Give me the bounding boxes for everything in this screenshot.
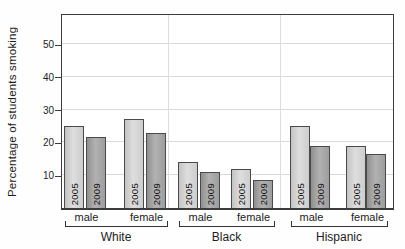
gridline-h-20 bbox=[62, 141, 393, 142]
group-bracket-black bbox=[179, 221, 275, 227]
bar-year-label: 2009 bbox=[151, 183, 162, 205]
bar-year-label: 2005 bbox=[129, 183, 140, 205]
gridline-h-50 bbox=[62, 43, 393, 44]
smoking-percentage-bar-chart: Percentage of students smoking 200520092… bbox=[0, 0, 405, 249]
bar-year-label: 2009 bbox=[315, 183, 326, 205]
y-tick-mark-50 bbox=[55, 45, 62, 46]
bar-white-male-2009: 2009 bbox=[86, 137, 106, 208]
y-tick-mark-40 bbox=[55, 77, 62, 78]
bar-year-label: 2009 bbox=[371, 183, 382, 205]
gridline-h-30 bbox=[62, 109, 393, 110]
bar-hispanic-female-2009: 2009 bbox=[366, 154, 386, 208]
bar-black-male-2009: 2009 bbox=[200, 172, 220, 208]
bar-year-label: 2009 bbox=[258, 183, 269, 205]
group-bracket-hispanic bbox=[291, 221, 388, 227]
bar-white-male-2005: 2005 bbox=[64, 126, 84, 208]
group-bracket-white bbox=[65, 221, 168, 227]
bar-year-label: 2009 bbox=[91, 183, 102, 205]
y-tick-label-40: 40 bbox=[28, 72, 54, 84]
y-tick-label-20: 20 bbox=[28, 137, 54, 149]
group-label-hispanic: Hispanic bbox=[316, 230, 362, 244]
group-label-white: White bbox=[101, 230, 132, 244]
gridline-v-1 bbox=[168, 15, 169, 208]
y-tick-mark-20 bbox=[55, 143, 62, 144]
bar-year-label: 2005 bbox=[183, 183, 194, 205]
gridline-h-10 bbox=[62, 174, 393, 175]
bar-hispanic-male-2005: 2005 bbox=[290, 126, 310, 208]
y-tick-label-10: 10 bbox=[28, 170, 54, 182]
y-axis-label: Percentage of students smoking bbox=[3, 14, 20, 210]
bar-hispanic-female-2005: 2005 bbox=[346, 146, 366, 208]
bar-year-label: 2005 bbox=[236, 183, 247, 205]
bar-white-female-2005: 2005 bbox=[124, 119, 144, 208]
bar-black-female-2009: 2009 bbox=[253, 180, 273, 208]
bar-year-label: 2009 bbox=[205, 183, 216, 205]
gridline-h-40 bbox=[62, 76, 393, 77]
plot-area: 2005200920052009200520092005200920052009… bbox=[61, 14, 394, 210]
bar-year-label: 2005 bbox=[69, 183, 80, 205]
y-tick-label-50: 50 bbox=[28, 39, 54, 51]
bar-white-female-2009: 2009 bbox=[146, 133, 166, 208]
y-tick-mark-30 bbox=[55, 110, 62, 111]
group-label-black: Black bbox=[212, 230, 241, 244]
y-tick-mark-10 bbox=[55, 176, 62, 177]
gridline-v-2 bbox=[280, 15, 281, 208]
y-tick-label-30: 30 bbox=[28, 105, 54, 117]
bar-year-label: 2005 bbox=[295, 183, 306, 205]
bar-black-male-2005: 2005 bbox=[178, 162, 198, 208]
bar-hispanic-male-2009: 2009 bbox=[310, 146, 330, 208]
bar-year-label: 2005 bbox=[351, 183, 362, 205]
bar-black-female-2005: 2005 bbox=[231, 169, 251, 208]
